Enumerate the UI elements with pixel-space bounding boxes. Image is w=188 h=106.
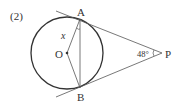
tangent-line-pb <box>56 53 162 97</box>
figure-canvas: (2) A B O P x 48° <box>0 0 188 106</box>
angle-p-label: 48° <box>137 49 149 59</box>
radius-oa <box>67 19 80 53</box>
point-b-label: B <box>77 91 84 103</box>
angle-p-arc <box>153 50 154 56</box>
radius-ob <box>67 53 80 88</box>
angle-x-arc <box>77 28 81 29</box>
point-o-label: O <box>55 48 63 60</box>
geometry-figure: (2) A B O P x 48° <box>0 0 188 106</box>
point-p-label: P <box>165 48 171 60</box>
angle-x-label: x <box>60 30 66 41</box>
problem-number: (2) <box>10 10 23 23</box>
tangent-line-pa <box>56 11 162 53</box>
center-dot <box>66 52 69 55</box>
point-a-label: A <box>77 6 85 18</box>
